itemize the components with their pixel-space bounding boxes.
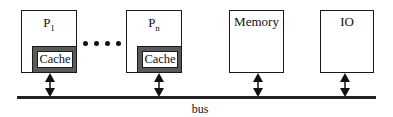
bus-line	[17, 96, 376, 99]
bidirectional-arrow-icon	[153, 73, 165, 97]
memory-label: Memory	[230, 14, 283, 30]
ellipsis-dot	[83, 41, 88, 46]
processor-pn-label: Pn	[127, 15, 181, 33]
processor-p1-label: P1	[22, 15, 76, 33]
bidirectional-arrow-icon	[339, 73, 351, 97]
bidirectional-arrow-icon	[44, 73, 56, 97]
cache-pn-label: Cache	[142, 51, 178, 68]
processor-p1-subscript: 1	[50, 23, 55, 33]
io-label: IO	[321, 14, 373, 30]
ellipsis-dot	[116, 41, 121, 46]
io-box: IO	[320, 10, 374, 73]
cache-p1-label: Cache	[37, 51, 73, 68]
bidirectional-arrow-icon	[252, 73, 264, 97]
memory-box: Memory	[229, 10, 284, 73]
processor-pn-subscript: n	[155, 23, 160, 33]
bus-label: bus	[185, 102, 215, 117]
ellipsis-dot	[105, 41, 110, 46]
ellipsis-dot	[94, 41, 99, 46]
